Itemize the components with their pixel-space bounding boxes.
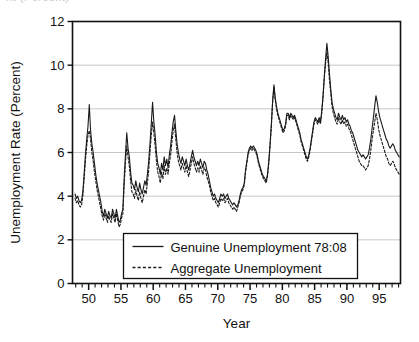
- legend-label-2: Aggregate Unemployment: [171, 261, 322, 276]
- y-tick-label: 2: [57, 232, 64, 247]
- series-group: [75, 43, 399, 226]
- x-axis-title: Year: [223, 316, 251, 331]
- y-tick-label: 12: [50, 14, 64, 29]
- series-line-2: [75, 52, 399, 227]
- legend[interactable]: Genuine Unemployment 78:08Aggregate Unem…: [124, 234, 358, 279]
- x-tick-label: 75: [243, 291, 257, 306]
- x-tick-label: 55: [114, 291, 128, 306]
- y-axis-title: Unemployment Rate (Percent): [8, 61, 23, 243]
- x-tick-label: 80: [275, 291, 289, 306]
- x-tick-label: 95: [372, 291, 386, 306]
- x-tick-label: 60: [146, 291, 160, 306]
- unemployment-line-chart: 02468101250556065707580859095Unemploymen…: [0, 0, 419, 342]
- y-tick-label: 10: [50, 58, 64, 73]
- figure-container: nt (Percent) 024681012505560657075808590…: [0, 0, 419, 342]
- y-tick-label: 8: [57, 101, 64, 116]
- x-tick-label: 70: [211, 291, 225, 306]
- y-tick-label: 0: [57, 276, 64, 291]
- y-axis: 024681012: [50, 14, 72, 291]
- y-tick-label: 4: [57, 189, 64, 204]
- y-tick-label: 6: [57, 145, 64, 160]
- x-tick-label: 50: [81, 291, 95, 306]
- x-tick-label: 85: [307, 291, 321, 306]
- x-tick-label: 65: [178, 291, 192, 306]
- x-tick-label: 90: [340, 291, 354, 306]
- legend-label-1: Genuine Unemployment 78:08: [171, 240, 347, 255]
